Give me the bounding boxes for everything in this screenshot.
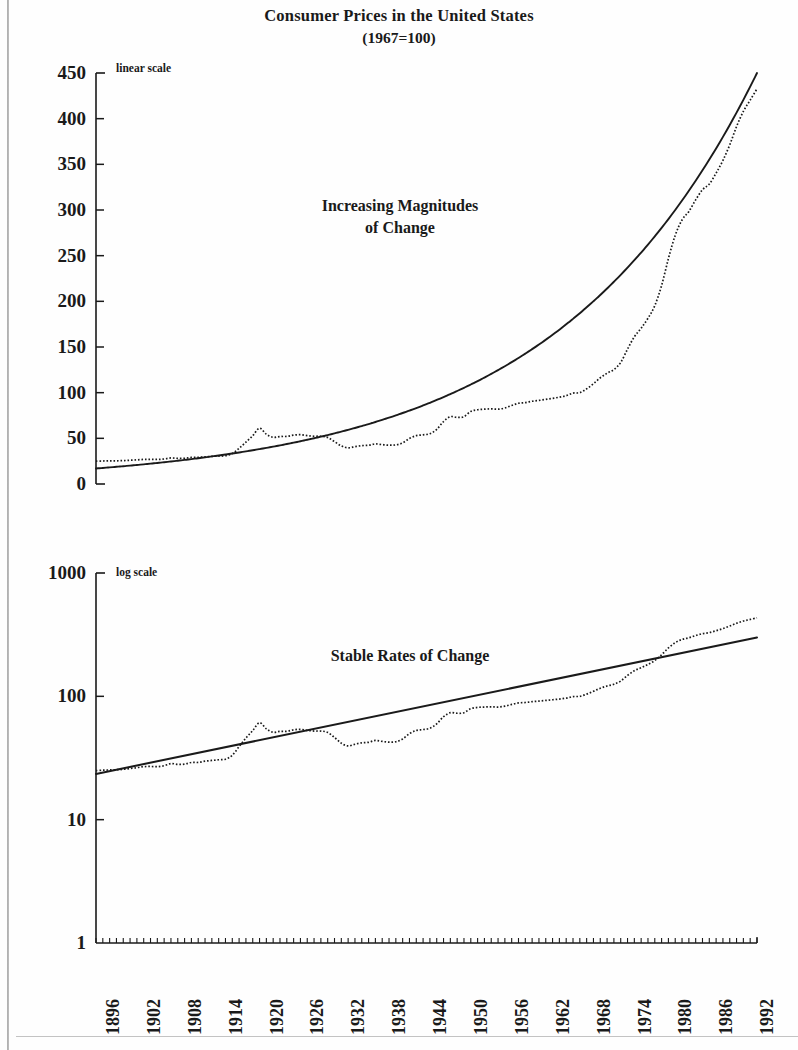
log-y-tick-label: 10	[16, 810, 86, 829]
linear-y-tick-label: 200	[16, 291, 86, 310]
x-axis-year-label: 1980	[675, 999, 696, 1035]
linear-y-tick-label: 450	[16, 63, 86, 82]
linear-scale-panel	[0, 0, 798, 520]
chart-page: Consumer Prices in the United States (19…	[0, 0, 798, 1050]
x-axis-year-label: 1944	[430, 999, 451, 1035]
x-axis-year-label: 1950	[471, 999, 492, 1035]
linear-y-tick-label: 0	[16, 474, 86, 493]
linear-y-tick-label: 100	[16, 383, 86, 402]
x-axis-year-label: 1992	[757, 999, 778, 1035]
linear-y-tick-label: 300	[16, 200, 86, 219]
linear-scale-note: linear scale	[116, 62, 171, 74]
linear-panel-canvas	[0, 0, 798, 520]
x-axis-year-label: 1932	[348, 999, 369, 1035]
x-axis-year-label: 1938	[389, 999, 410, 1035]
linear-y-tick-label: 400	[16, 109, 86, 128]
log-y-tick-label: 1	[16, 933, 86, 952]
x-axis-year-label: 1926	[307, 999, 328, 1035]
x-axis-year-label: 1908	[185, 999, 206, 1035]
linear-panel-annotation-line2: of Change	[250, 217, 550, 239]
log-panel-canvas	[0, 520, 798, 960]
log-panel-annotation: Stable Rates of Change	[260, 645, 560, 667]
x-axis-year-label: 1968	[594, 999, 615, 1035]
x-axis-year-label: 1914	[226, 999, 247, 1035]
x-axis-year-label: 1920	[267, 999, 288, 1035]
x-axis-year-label: 1974	[635, 999, 656, 1035]
x-axis-year-label: 1896	[103, 999, 124, 1035]
linear-y-tick-label: 350	[16, 154, 86, 173]
log-y-tick-label: 1000	[16, 563, 86, 582]
linear-panel-annotation-line1: Increasing Magnitudes	[250, 195, 550, 217]
x-axis-year-label: 1902	[144, 999, 165, 1035]
linear-y-tick-label: 150	[16, 337, 86, 356]
log-scale-panel	[0, 520, 798, 960]
scan-bottom-edge-artifact	[16, 1036, 798, 1037]
log-y-tick-label: 100	[16, 686, 86, 705]
linear-y-tick-label: 250	[16, 246, 86, 265]
x-axis-year-label: 1986	[716, 999, 737, 1035]
log-scale-note: log scale	[116, 566, 157, 578]
x-axis-year-label: 1956	[512, 999, 533, 1035]
linear-y-tick-label: 50	[16, 428, 86, 447]
x-axis-year-label: 1962	[553, 999, 574, 1035]
